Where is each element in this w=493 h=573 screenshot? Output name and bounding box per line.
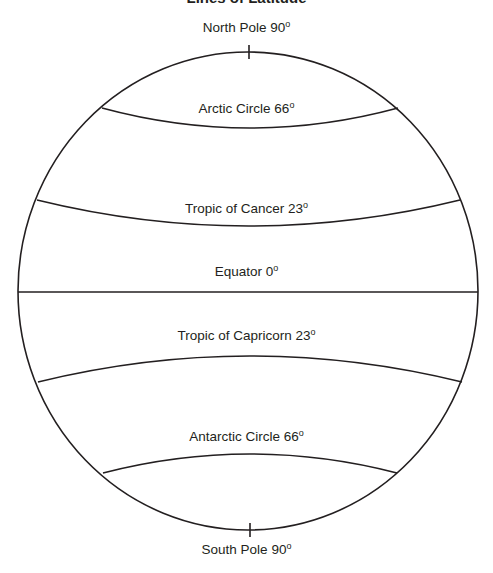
antarctic-circle-label: Antarctic Circle 66o [0, 429, 493, 445]
north-pole-label: North Pole 90o [0, 20, 493, 36]
globe-outline [18, 52, 478, 530]
arctic-circle-label: Arctic Circle 66o [0, 101, 493, 117]
globe-diagram [0, 0, 493, 573]
tropic-of-capricorn-line [38, 356, 462, 382]
south-pole-label: South Pole 90o [0, 542, 493, 558]
equator-label: Equator 0o [0, 264, 493, 280]
tropic-of-cancer-label: Tropic of Cancer 23o [0, 201, 493, 217]
antarctic-circle-line [103, 454, 397, 473]
tropic-of-capricorn-label: Tropic of Capricorn 23o [0, 328, 493, 344]
